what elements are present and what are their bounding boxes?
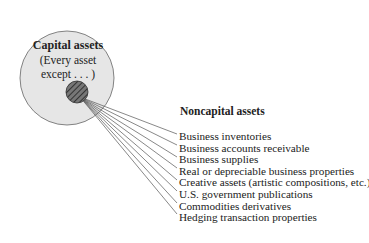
list-item: Business inventories (179, 131, 369, 143)
capital-assets-title: Capital assets (20, 38, 116, 53)
noncapital-assets-list: Business inventories Business accounts r… (179, 131, 369, 224)
noncapital-assets-title: Noncapital assets (180, 105, 265, 117)
capital-assets-diagram: Capital assets (Every asset except . . .… (0, 0, 369, 243)
connector-lines (80, 97, 177, 214)
noncapital-hatched-circle (66, 81, 88, 103)
capital-assets-subtitle: (Every asset except . . . ) (20, 53, 116, 81)
capital-subtitle-line1: (Every asset (20, 53, 116, 67)
capital-subtitle-line2: except . . . ) (20, 67, 116, 81)
list-item: Hedging transaction properties (179, 212, 369, 224)
list-item: U.S. government publications (179, 189, 369, 201)
